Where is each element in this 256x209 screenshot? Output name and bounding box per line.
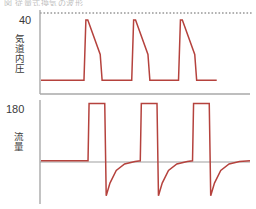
ventilator-waveform-figure: 図 従量式換気の波形 40 気道内圧 180 流量: [0, 0, 256, 209]
figure-caption-clipped: 図 従量式換気の波形: [4, 0, 124, 6]
pressure-plot: [0, 8, 256, 98]
flow-plot: [0, 100, 256, 209]
pressure-panel: 40 気道内圧: [0, 8, 256, 98]
flow-trace: [41, 104, 250, 196]
flow-panel: 180 流量: [0, 100, 256, 209]
pressure-trace: [41, 20, 217, 80]
